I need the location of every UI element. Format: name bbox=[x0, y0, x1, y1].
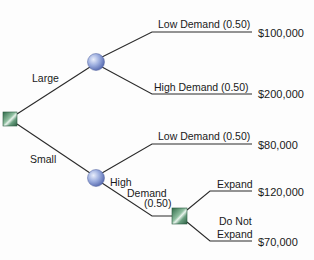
label-do-not-expand-line2: Expand bbox=[217, 228, 253, 240]
payoff-expand: $120,000 bbox=[258, 186, 304, 198]
edge-small-low-demand bbox=[102, 144, 252, 173]
label-large: Large bbox=[32, 72, 59, 84]
root-decision-node bbox=[3, 112, 17, 126]
tree-canvas: Large Small Low Demand (0.50) High Deman… bbox=[0, 0, 314, 260]
payoff-large-low: $100,000 bbox=[258, 27, 304, 39]
chance-node-small bbox=[88, 170, 105, 187]
expand-decision-node bbox=[172, 208, 187, 224]
edge-large-low-demand bbox=[102, 32, 252, 57]
label-large-low-demand: Low Demand (0.50) bbox=[158, 18, 250, 30]
chance-node-large bbox=[88, 54, 105, 71]
payoff-do-not-expand: $70,000 bbox=[258, 236, 298, 248]
label-expand: Expand bbox=[217, 178, 253, 190]
label-do-not-expand-line1: Do Not bbox=[219, 215, 252, 227]
edge-expand bbox=[187, 191, 252, 210]
decision-tree-diagram: Large Small Low Demand (0.50) High Deman… bbox=[0, 0, 314, 260]
label-small: Small bbox=[30, 153, 56, 165]
payoff-small-low: $80,000 bbox=[258, 139, 298, 151]
label-large-high-demand: High Demand (0.50) bbox=[154, 81, 249, 93]
label-small-low-demand: Low Demand (0.50) bbox=[158, 130, 250, 142]
label-small-high-demand-line3: (0.50) bbox=[144, 197, 171, 209]
payoff-large-high: $200,000 bbox=[258, 88, 304, 100]
edge-small bbox=[17, 124, 90, 173]
